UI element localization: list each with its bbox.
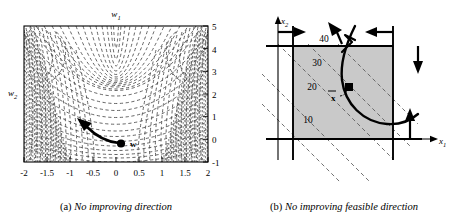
point-xbar-marker: [345, 83, 353, 91]
constraint-arrow-5: [405, 108, 415, 139]
x-tick-labels: -2 -1.5 -1 -0.5 0 0.5 1 1.5 2: [20, 168, 210, 178]
axis-label-x2: x2: [280, 16, 289, 28]
svg-text:10: 10: [303, 115, 313, 125]
svg-text:2: 2: [206, 168, 211, 178]
caption-b-label: (b): [270, 201, 282, 212]
point-w-label: w: [130, 139, 137, 149]
svg-text:20: 20: [307, 82, 317, 92]
panel-a-plot: w1 w2 -2 -1.5 -1 -0.5 0 0.5 1 1.5 2 5 4 …: [0, 0, 232, 216]
svg-text:-1: -1: [66, 168, 74, 178]
svg-text:40: 40: [319, 34, 329, 44]
svg-text:30: 30: [312, 58, 322, 68]
panel-a: w1 w2 -2 -1.5 -1 -0.5 0 0.5 1 1.5 2 5 4 …: [0, 0, 232, 216]
x-axis-ticks: [24, 157, 208, 162]
constraint-arrow-3: [365, 27, 393, 37]
panel-b-plot: x2 x1 40 30 20 10 x: [232, 0, 456, 216]
svg-text:5: 5: [212, 22, 217, 32]
axis-label-w1: w1: [111, 9, 120, 21]
svg-text:3: 3: [212, 67, 217, 77]
caption-b: (b) No improving feasible direction: [232, 201, 456, 212]
axis-label-x1: x1: [438, 136, 446, 148]
caption-a: (a) No improving direction: [0, 201, 232, 212]
constraint-arrow-1: [278, 27, 306, 37]
svg-text:0: 0: [212, 135, 217, 145]
improving-direction-arrow: [77, 118, 119, 143]
svg-text:-0.5: -0.5: [86, 168, 101, 178]
point-xbar-label: x: [331, 93, 336, 103]
constraint-arrow-4: [413, 46, 423, 74]
point-w-marker: [117, 139, 125, 147]
panel-b: x2 x1 40 30 20 10 x (b) No improving fea…: [232, 0, 456, 216]
svg-text:0: 0: [114, 168, 119, 178]
svg-text:0.5: 0.5: [133, 168, 145, 178]
svg-text:-1.5: -1.5: [40, 168, 55, 178]
svg-text:1: 1: [160, 168, 165, 178]
y-tick-labels: 5 4 3 2 1 0 -1: [212, 22, 220, 168]
svg-text:-1: -1: [212, 158, 220, 168]
caption-b-text: No improving feasible direction: [285, 201, 418, 212]
caption-a-label: (a): [60, 201, 72, 212]
axis-label-w2: w2: [8, 88, 18, 100]
svg-text:-2: -2: [20, 168, 28, 178]
x-axis-arrowhead: [430, 136, 438, 142]
svg-text:1.5: 1.5: [179, 168, 191, 178]
figure-container: w1 w2 -2 -1.5 -1 -0.5 0 0.5 1 1.5 2 5 4 …: [0, 0, 456, 216]
caption-a-text: No improving direction: [74, 201, 172, 212]
svg-text:2: 2: [212, 90, 217, 100]
svg-text:1: 1: [212, 112, 217, 122]
svg-text:4: 4: [212, 45, 217, 55]
